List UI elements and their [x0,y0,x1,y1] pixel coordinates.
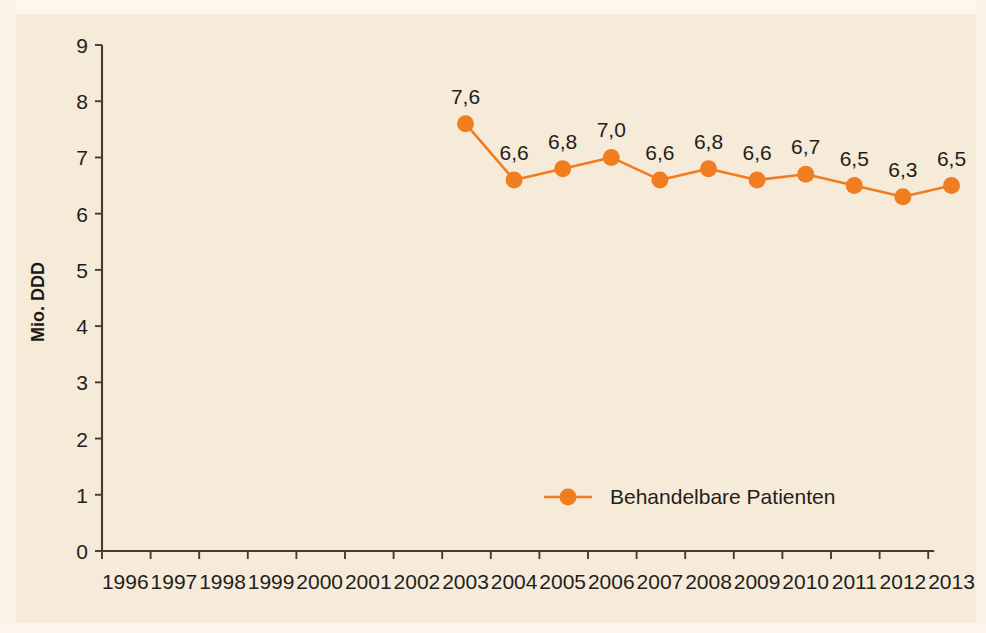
false [457,115,474,132]
x-tick-label: 2011 [832,570,877,593]
paper-margin-bottom [0,623,986,633]
data-point-label: 6,5 [840,147,869,170]
x-tick-label: 2002 [394,570,441,593]
axes-group [102,45,934,551]
y-tick-label: 9 [76,34,88,57]
false [554,160,571,177]
data-point-label: 6,7 [791,135,820,158]
x-tick-label: 2008 [685,570,732,593]
x-axis-ticks: 1996199719981999200020012002200320042005… [102,551,975,593]
legend-label: Behandelbare Patienten [610,485,835,508]
x-tick-label: 1999 [248,570,295,593]
y-tick-label: 1 [76,484,88,507]
y-tick-label: 8 [76,90,88,113]
data-point-label: 6,8 [694,130,723,153]
data-point-label: 7,6 [451,85,480,108]
chart-page: 0123456789 19961997199819992000200120022… [0,0,986,633]
x-tick-label: 2005 [539,570,586,593]
paper-margin-left [0,0,16,633]
y-tick-label: 4 [76,315,88,338]
paper-margin-right [976,0,986,633]
line-chart: 0123456789 19961997199819992000200120022… [16,14,976,623]
y-tick-label: 5 [76,259,88,282]
legend-marker-icon [560,489,577,506]
x-tick-label: 1998 [199,570,246,593]
data-point-label: 6,6 [499,141,528,164]
false [506,171,523,188]
data-point-label: 6,8 [548,130,577,153]
false [700,160,717,177]
axis-lines [102,45,934,551]
false [603,149,620,166]
false [797,166,814,183]
data-point-label: 6,5 [937,147,966,170]
x-tick-label: 1996 [102,570,149,593]
data-point-label: 6,6 [645,141,674,164]
false [749,171,766,188]
false [894,188,911,205]
data-point-label: 6,3 [888,158,917,181]
x-tick-label: 2004 [491,570,538,593]
false [846,177,863,194]
false [943,177,960,194]
y-axis-ticks: 0123456789 [76,34,102,563]
y-tick-label: 7 [76,146,88,169]
x-tick-label: 2000 [296,570,343,593]
x-tick-label: 2001 [345,570,392,593]
x-tick-label: 2010 [782,570,829,593]
chart-panel: 0123456789 19961997199819992000200120022… [16,14,976,623]
y-tick-label: 6 [76,203,88,226]
data-point-label: 7,0 [597,118,626,141]
data-point-label: 6,6 [742,141,771,164]
x-tick-label: 2013 [928,570,975,593]
x-tick-label: 2003 [442,570,489,593]
paper-margin-top [0,0,986,14]
false [651,171,668,188]
x-tick-label: 2012 [880,570,927,593]
y-tick-label: 0 [76,540,88,563]
x-tick-label: 2007 [637,570,684,593]
y-tick-label: 3 [76,371,88,394]
y-axis-title: Mio. DDD [28,262,48,342]
y-tick-label: 2 [76,428,88,451]
x-tick-label: 2009 [734,570,781,593]
chart-legend: Behandelbare Patienten [544,485,835,508]
x-tick-label: 1997 [151,570,198,593]
x-tick-label: 2006 [588,570,635,593]
